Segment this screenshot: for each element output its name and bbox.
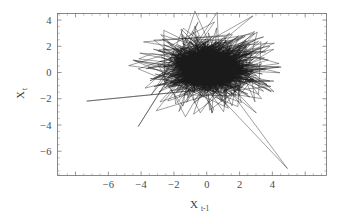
x-tick-label: 4 (270, 179, 276, 190)
lag-plot-figure: −6−4−2024 420−2−4−6 X t-1 X t (0, 0, 338, 217)
x-axis-title-sub: t-1 (201, 204, 210, 213)
plot-svg: −6−4−2024 420−2−4−6 X t-1 X t (0, 0, 338, 217)
y-tick-label: 0 (46, 67, 51, 78)
x-tick-label: −6 (103, 179, 114, 190)
x-axis-title-main: X (190, 198, 198, 210)
x-tick-label: −4 (136, 179, 148, 190)
y-tick-label: −6 (40, 146, 51, 157)
y-tick-label: 2 (46, 41, 51, 52)
y-tick-label: 4 (46, 15, 52, 26)
y-tick-label: −2 (40, 93, 51, 104)
y-axis-title-main: X (14, 91, 26, 99)
y-tick-label: −4 (40, 120, 52, 131)
x-tick-label: −2 (168, 179, 179, 190)
x-tick-label: 2 (237, 179, 242, 190)
x-tick-label: 0 (204, 179, 209, 190)
